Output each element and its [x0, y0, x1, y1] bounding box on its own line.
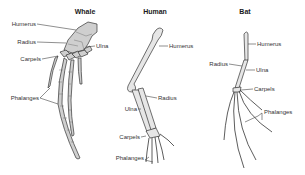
whale-arm-bones [60, 22, 97, 60]
human-phalanges-label: Phalanges [116, 155, 144, 161]
bat-phalanges [224, 90, 272, 168]
human-radius-label: Radius [158, 95, 177, 101]
whale-humerus-label: Humerus [12, 21, 36, 27]
bat-panel: Bat Humerus Radius Ulna Carpels Phalange… [209, 8, 292, 168]
homologous-limbs-diagram: Whale Humerus [0, 0, 305, 175]
bat-humerus-label: Humerus [257, 41, 281, 47]
human-ulna-label: Ulna [125, 106, 138, 112]
bat-phalanges-label: Phalanges [264, 109, 292, 115]
bat-carpels [233, 87, 241, 92]
bat-humerus [244, 32, 248, 62]
bat-radius-label: Radius [209, 61, 228, 67]
whale-panel: Whale Humerus [11, 8, 109, 159]
whale-phalanges-label: Phalanges [11, 95, 39, 101]
bat-ulna-label: Ulna [256, 67, 269, 73]
whale-radius-label: Radius [17, 39, 36, 45]
bat-radius-ulna [235, 60, 248, 88]
whale-carpels-label: Carpels [20, 56, 41, 62]
whale-phalanges [48, 56, 82, 159]
human-phalanges [146, 134, 174, 164]
whale-ulna-label: Ulna [96, 43, 109, 49]
human-panel: Human Humerus Radius Ulna Carpels Phalan… [116, 8, 194, 164]
whale-title: Whale [75, 8, 96, 15]
human-humerus-label: Humerus [169, 43, 193, 49]
human-humerus [128, 28, 164, 92]
human-title: Human [143, 8, 167, 15]
bat-title: Bat [239, 8, 251, 15]
bat-carpels-label: Carpels [254, 86, 275, 92]
human-carpels-label: Carpels [119, 134, 140, 140]
